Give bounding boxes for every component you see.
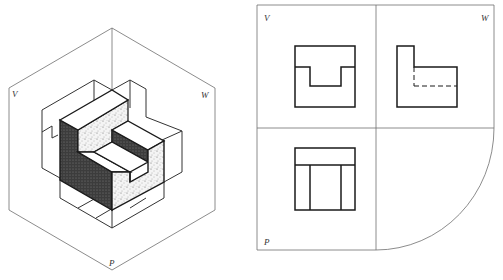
- side-view-w: [397, 46, 457, 107]
- folding-arc: [376, 128, 494, 250]
- ortho-label-v: V: [264, 13, 271, 23]
- front-view-v: [295, 46, 355, 107]
- projection-frame: [257, 5, 494, 250]
- isometric-label-p: P: [108, 258, 115, 268]
- orthographic-views: V W P: [257, 5, 494, 250]
- isometric-label-w: W: [201, 90, 210, 100]
- ortho-label-p: P: [263, 237, 270, 247]
- solid-block: [60, 90, 164, 210]
- isometric-label-v: V: [12, 89, 19, 99]
- top-view-p: [295, 148, 355, 210]
- ortho-label-w: W: [481, 13, 490, 23]
- isometric-view: V W P: [9, 28, 215, 270]
- projection-diagram: V W P V W P: [0, 0, 503, 280]
